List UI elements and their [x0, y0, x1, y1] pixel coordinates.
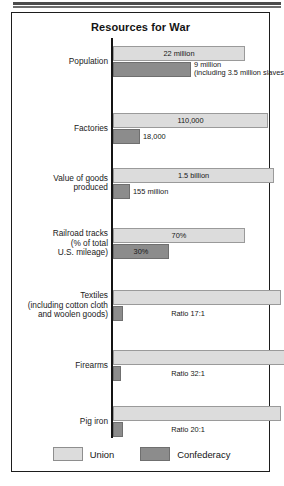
bar-value-confederacy: 155 million [133, 187, 283, 196]
category-label: Railroad tracks (% of total U.S. mileage… [0, 229, 108, 258]
bar-union [113, 290, 281, 305]
legend-label-union: Union [90, 449, 115, 460]
chart-figure: Resources for War Population22 million9 … [11, 12, 270, 472]
bar-value-confederacy: 9 million (including 3.5 million slaves) [194, 61, 284, 78]
chart-title: Resources for War [12, 21, 269, 33]
category-label: Population [0, 57, 108, 67]
bar-confederacy: 30% [113, 244, 169, 259]
scan-artifact-band-top [13, 2, 281, 5]
ratio-caption: Ratio 20:1 [113, 425, 263, 434]
chart-legend: Union Confederacy [12, 447, 271, 461]
legend-item-union: Union [53, 447, 115, 461]
bar-union: 110,000 [113, 113, 268, 128]
ratio-caption: Ratio 17:1 [113, 309, 263, 318]
bar-union: 70% [113, 228, 245, 243]
legend-item-confederacy: Confederacy [140, 447, 230, 461]
bar-pair: 110,00018,000 [113, 113, 268, 144]
bar-value-union: 1.5 billion [114, 171, 273, 180]
bar-value-confederacy: 30% [114, 247, 168, 256]
bar-union [113, 406, 281, 421]
bar-value-union: 22 million [114, 49, 244, 58]
ratio-caption: Ratio 32:1 [113, 369, 263, 378]
legend-swatch-confederacy-icon [140, 447, 170, 461]
bar-pair: 22 million9 million (including 3.5 milli… [113, 46, 245, 77]
bar-pair: 70%30% [113, 228, 245, 259]
category-label: Value of goods produced [0, 174, 108, 193]
bar-confederacy: 9 million (including 3.5 million slaves) [113, 62, 191, 77]
scan-artifact-band-top-secondary [13, 6, 281, 8]
bar-value-union: 110,000 [114, 116, 267, 125]
plot-area: Population22 million9 million (including… [12, 38, 271, 438]
bar-pair: 1.5 billion155 million [113, 168, 274, 199]
bar-union: 1.5 billion [113, 168, 274, 183]
category-label: Firearms [0, 361, 108, 371]
bar-union [113, 350, 284, 365]
category-label: Textiles (including cotton cloth and woo… [0, 291, 108, 320]
bar-confederacy: 155 million [113, 184, 130, 199]
bar-value-confederacy: 18,000 [143, 132, 284, 141]
legend-label-confederacy: Confederacy [177, 449, 230, 460]
bar-union: 22 million [113, 46, 245, 61]
category-label: Factories [0, 124, 108, 134]
bar-confederacy: 18,000 [113, 129, 140, 144]
category-label: Pig iron [0, 417, 108, 427]
page: Resources for War Population22 million9 … [0, 0, 284, 486]
bar-value-union: 70% [114, 231, 244, 240]
legend-swatch-union-icon [53, 447, 83, 461]
